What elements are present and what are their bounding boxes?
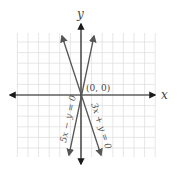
line1-label: 5x − y = 0 [58,94,78,143]
y-axis-label: y [76,7,84,21]
line2-label: 3x + y = 0 [89,102,113,151]
x-axis-label: x [161,88,168,102]
origin-label: (0, 0) [86,83,110,93]
graph: y x (0, 0) 5x − y = 0 3x + y = 0 [0,0,177,169]
